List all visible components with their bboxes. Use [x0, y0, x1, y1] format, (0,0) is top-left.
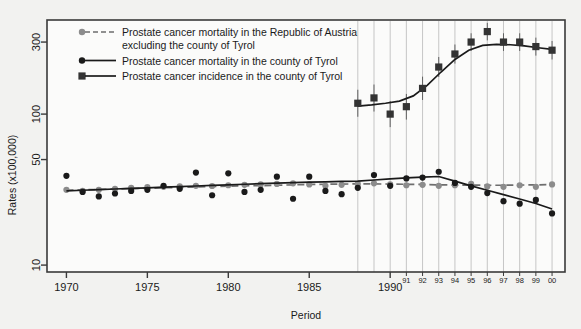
marker-tyrol_incidence-2000: [548, 47, 555, 54]
marker-tyrol_incidence-1996: [484, 28, 491, 35]
marker-tyrol_mortality-1977: [177, 186, 183, 192]
y-tick-label-10: 10: [30, 259, 42, 271]
x-tick-label-1985: 1985: [297, 281, 321, 293]
marker-tyrol_incidence-1994: [451, 50, 458, 57]
x-tick-label-99: 99: [532, 276, 540, 285]
marker-austria_mortality-1997: [500, 184, 506, 190]
marker-austria_mortality-1987: [339, 182, 345, 188]
legend-label-0: Prostate cancer mortality in the Republi…: [122, 26, 357, 38]
legend-label-0-line2: excluding the county of Tyrol: [122, 39, 255, 51]
marker-tyrol_incidence-1997: [500, 38, 507, 45]
marker-tyrol_mortality-1971: [80, 189, 86, 195]
marker-tyrol_mortality-1990: [387, 183, 393, 189]
marker-tyrol_mortality-1989: [371, 172, 377, 178]
marker-austria_mortality-1970: [63, 187, 69, 193]
x-tick-label-95: 95: [467, 276, 475, 285]
prostate-cancer-rates-chart: 3001005010 19701975198019851990919293949…: [0, 0, 581, 329]
x-tick-label-92: 92: [418, 276, 426, 285]
marker-tyrol_incidence-1999: [532, 43, 539, 50]
x-tick-label-1975: 1975: [135, 281, 159, 293]
marker-tyrol_mortality-1980: [225, 170, 231, 176]
legend-marker-square-2: [78, 72, 85, 79]
marker-austria_mortality-1998: [517, 182, 523, 188]
chart-figure: 3001005010 19701975198019851990919293949…: [0, 0, 581, 329]
marker-tyrol_incidence-1989: [370, 94, 377, 101]
marker-tyrol_mortality-1993: [436, 169, 442, 175]
marker-tyrol_mortality-1972: [96, 193, 102, 199]
x-tick-label-96: 96: [483, 276, 491, 285]
marker-tyrol_incidence-1988: [354, 100, 361, 107]
marker-tyrol_incidence-1998: [516, 38, 523, 45]
marker-tyrol_mortality-1976: [160, 183, 166, 189]
marker-austria_mortality-1991: [403, 182, 409, 188]
x-tick-label-00: 00: [548, 276, 556, 285]
marker-austria_mortality-1993: [436, 183, 442, 189]
marker-tyrol_mortality-1979: [209, 192, 215, 198]
x-tick-label-97: 97: [499, 276, 507, 285]
marker-tyrol_mortality-1994: [452, 180, 458, 186]
marker-tyrol_incidence-1993: [435, 63, 442, 70]
marker-tyrol_mortality-1984: [290, 196, 296, 202]
marker-tyrol_mortality-1999: [533, 197, 539, 203]
marker-austria_mortality-2000: [549, 181, 555, 187]
marker-tyrol_mortality-1996: [484, 190, 490, 196]
x-tick-label-98: 98: [516, 276, 524, 285]
marker-tyrol_mortality-1982: [258, 187, 264, 193]
marker-tyrol_mortality-1973: [112, 190, 118, 196]
marker-tyrol_mortality-1997: [500, 198, 506, 204]
marker-austria_mortality-1989: [371, 180, 377, 186]
marker-tyrol_mortality-1991: [403, 175, 409, 181]
x-tick-label-1990: 1990: [378, 281, 402, 293]
marker-tyrol_mortality-1988: [355, 185, 361, 191]
x-tick-label-1980: 1980: [216, 281, 240, 293]
marker-tyrol_mortality-1974: [128, 188, 134, 194]
marker-tyrol_incidence-1995: [468, 38, 475, 45]
marker-tyrol_mortality-1995: [468, 184, 474, 190]
legend-marker-circle-0: [79, 29, 85, 35]
y-axis-title: Rates (x100,000): [6, 135, 18, 216]
y-tick-label-100: 100: [30, 105, 42, 123]
y-tick-label-300: 300: [30, 33, 42, 51]
legend-label-2: Prostate cancer incidence in the county …: [122, 70, 342, 82]
x-axis-title: Period: [291, 309, 322, 321]
x-tick-label-1970: 1970: [54, 281, 78, 293]
legend-label-1: Prostate cancer mortality in the county …: [122, 55, 338, 67]
marker-tyrol_mortality-1978: [193, 169, 199, 175]
marker-tyrol_mortality-1983: [274, 174, 280, 180]
marker-tyrol_incidence-1991: [403, 103, 410, 110]
x-tick-label-91: 91: [402, 276, 410, 285]
marker-tyrol_mortality-1986: [322, 188, 328, 194]
marker-tyrol_mortality-1987: [339, 191, 345, 197]
x-tick-label-94: 94: [451, 276, 459, 285]
marker-tyrol_mortality-1975: [144, 187, 150, 193]
y-tick-label-50: 50: [30, 153, 42, 165]
x-tick-label-93: 93: [435, 276, 443, 285]
marker-tyrol_mortality-1992: [419, 174, 425, 180]
marker-tyrol_mortality-1970: [63, 173, 69, 179]
marker-tyrol_incidence-1990: [387, 111, 394, 118]
legend-marker-circle-1: [79, 57, 85, 63]
marker-tyrol_incidence-1992: [419, 85, 426, 92]
marker-tyrol_mortality-1981: [241, 189, 247, 195]
marker-austria_mortality-1992: [419, 182, 425, 188]
marker-tyrol_mortality-1998: [517, 201, 523, 207]
marker-austria_mortality-1999: [533, 184, 539, 190]
marker-tyrol_mortality-2000: [549, 210, 555, 216]
marker-austria_mortality-1996: [484, 183, 490, 189]
marker-tyrol_mortality-1985: [306, 174, 312, 180]
